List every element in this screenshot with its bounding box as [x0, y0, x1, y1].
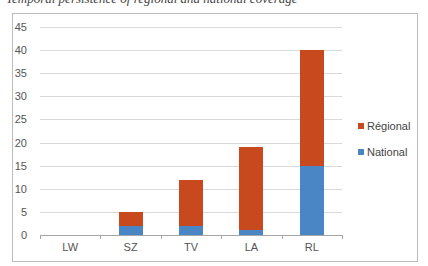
legend: Régional National: [358, 120, 410, 172]
y-tick-label: 10: [0, 183, 27, 195]
national-swatch-icon: [358, 149, 364, 155]
x-tick-label: SZ: [101, 241, 161, 253]
gridline: [40, 166, 342, 167]
y-tick-label: 45: [0, 21, 27, 33]
bar-national-rl: [300, 166, 324, 235]
y-tick-label: 20: [0, 137, 27, 149]
gridline: [40, 73, 342, 74]
gridline: [40, 50, 342, 51]
x-tick-mark: [282, 235, 283, 239]
bar-national-sz: [119, 226, 143, 235]
x-tick-mark: [221, 235, 222, 239]
bar-regional-rl: [300, 50, 324, 166]
y-tick-label: 15: [0, 160, 27, 172]
y-tick-label: 25: [0, 113, 27, 125]
figure-caption: Temporal persistence of regional and nat…: [6, 0, 298, 7]
y-tick-label: 5: [0, 206, 27, 218]
y-tick-label: 30: [0, 90, 27, 102]
bar-regional-la: [239, 147, 263, 230]
plot-area: [40, 27, 342, 235]
legend-item-regional: Régional: [358, 120, 410, 132]
gridline: [40, 119, 342, 120]
regional-swatch-icon: [358, 123, 364, 129]
x-tick-mark: [40, 235, 41, 239]
bar-regional-sz: [119, 212, 143, 226]
gridline: [40, 27, 342, 28]
y-tick-label: 40: [0, 44, 27, 56]
bar-national-la: [239, 230, 263, 235]
gridline: [40, 143, 342, 144]
x-tick-mark: [100, 235, 101, 239]
x-axis-line: [40, 235, 342, 236]
y-tick-label: 35: [0, 67, 27, 79]
x-tick-label: LA: [221, 241, 281, 253]
x-tick-label: TV: [161, 241, 221, 253]
bar-national-tv: [179, 226, 203, 235]
x-tick-mark: [161, 235, 162, 239]
x-tick-label: LW: [40, 241, 100, 253]
legend-label-regional: Régional: [367, 120, 410, 132]
x-tick-label: RL: [282, 241, 342, 253]
y-tick-label: 0: [0, 229, 27, 241]
gridline: [40, 96, 342, 97]
x-tick-mark: [342, 235, 343, 239]
bar-regional-tv: [179, 180, 203, 226]
legend-item-national: National: [358, 146, 410, 158]
legend-label-national: National: [367, 146, 407, 158]
